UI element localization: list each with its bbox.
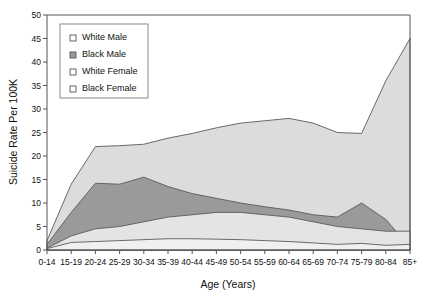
legend-swatch-white-male (70, 35, 76, 41)
y-axis-title: Suicide Rate Per 100K (7, 79, 19, 185)
chart-canvas: 05101520253035404550 0-1415-1920-2425-29… (0, 0, 424, 295)
y-tick-label: 20 (32, 151, 42, 161)
legend-label-white-male: White Male (82, 32, 127, 42)
y-tick-label: 5 (36, 222, 41, 232)
x-tick-label: 20-24 (85, 257, 107, 267)
x-tick-label: 25-29 (109, 257, 131, 267)
y-axis-ticks: 05101520253035404550 (32, 10, 47, 255)
x-tick-label: 45-49 (206, 257, 228, 267)
y-tick-label: 25 (32, 128, 42, 138)
legend-swatch-black-female (70, 86, 76, 92)
y-tick-label: 35 (32, 81, 42, 91)
x-tick-label: 40-44 (181, 257, 203, 267)
legend-swatch-white-female (70, 69, 76, 75)
legend-label-black-female: Black Female (82, 83, 137, 93)
y-tick-label: 0 (36, 245, 41, 255)
x-tick-label: 80-84 (375, 257, 397, 267)
x-tick-label: 65-69 (302, 257, 324, 267)
x-tick-label: 35-39 (157, 257, 179, 267)
x-tick-label: 60-64 (278, 257, 300, 267)
y-tick-label: 45 (32, 34, 42, 44)
chart-legend: White MaleBlack MaleWhite FemaleBlack Fe… (60, 24, 148, 98)
suicide-rate-area-chart: 05101520253035404550 0-1415-1920-2425-29… (0, 0, 424, 295)
legend-swatch-black-male (70, 52, 76, 58)
legend-label-black-male: Black Male (82, 49, 126, 59)
y-tick-label: 15 (32, 175, 42, 185)
x-tick-label: 50-54 (230, 257, 252, 267)
x-tick-label: 70-74 (327, 257, 349, 267)
y-tick-label: 10 (32, 198, 42, 208)
x-axis-title: Age (Years) (200, 278, 255, 290)
y-tick-label: 30 (32, 104, 42, 114)
x-axis-ticks: 0-1415-1920-2425-2930-3435-3940-4445-495… (38, 250, 417, 267)
x-tick-label: 0-14 (38, 257, 55, 267)
legend-label-white-female: White Female (82, 66, 138, 76)
x-tick-label: 85+ (403, 257, 417, 267)
x-tick-label: 75-79 (351, 257, 373, 267)
y-tick-label: 40 (32, 57, 42, 67)
x-tick-label: 15-19 (60, 257, 82, 267)
x-tick-label: 30-34 (133, 257, 155, 267)
y-tick-label: 50 (32, 10, 42, 20)
x-tick-label: 55-59 (254, 257, 276, 267)
